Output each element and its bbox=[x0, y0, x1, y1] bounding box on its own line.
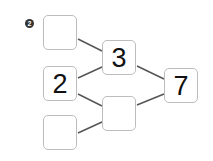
answer-box-top-left[interactable] bbox=[43, 15, 77, 50]
problem-number-badge: 2 bbox=[25, 19, 34, 28]
answer-box-bottom-middle[interactable] bbox=[102, 96, 136, 131]
number-box-middle-left: 2 bbox=[43, 66, 77, 101]
number-box-right: 7 bbox=[164, 68, 198, 103]
answer-box-bottom-left[interactable] bbox=[43, 115, 77, 150]
number-box-top-middle: 3 bbox=[102, 40, 136, 75]
